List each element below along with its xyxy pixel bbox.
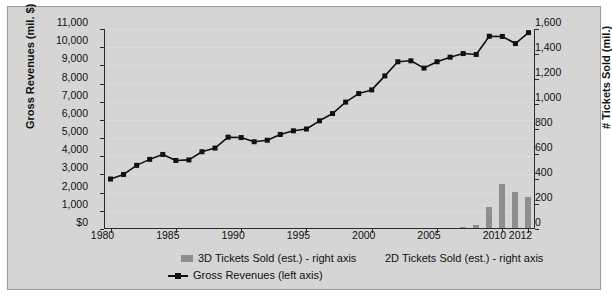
data-point-marker <box>121 172 126 177</box>
legend-bar-swatch-icon <box>181 255 193 262</box>
data-point-marker <box>199 149 204 154</box>
data-point-marker <box>160 152 165 157</box>
y-axis-right-tick <box>535 229 539 230</box>
y-axis-left-tick-label: 11,000 <box>8 16 88 28</box>
series-line-path <box>111 33 529 179</box>
y-axis-right-title: # Tickets Sold (mil.) <box>600 26 612 129</box>
y-axis-left-tick <box>100 120 104 121</box>
data-point-marker <box>213 146 218 151</box>
y-axis-right-tick <box>535 129 539 130</box>
y-axis-left-tick <box>100 193 104 194</box>
y-axis-left-tick-label: 7,000 <box>8 89 88 101</box>
legend-item-label: 3D Tickets Sold (est.) - right axis <box>198 253 356 264</box>
data-point-marker <box>330 111 335 116</box>
data-point-marker <box>265 138 270 143</box>
y-axis-left-tick-label: 1,000 <box>8 198 88 210</box>
y-axis-left-tick <box>100 211 104 212</box>
y-axis-right-tick-label: 200 <box>535 191 553 203</box>
y-axis-left-tick-label: 10,000 <box>8 34 88 46</box>
data-point-marker <box>369 87 374 92</box>
y-axis-left-tick <box>100 47 104 48</box>
y-axis-left-tick-label: 6,000 <box>8 107 88 119</box>
data-point-marker <box>343 100 348 105</box>
y-axis-right-tick-label: 1,600 <box>535 16 561 28</box>
legend-item[interactable]: 2D Tickets Sold (est.) - right axis <box>385 253 543 264</box>
y-axis-right-tick <box>535 154 539 155</box>
data-point-marker <box>317 118 322 123</box>
data-point-marker <box>421 66 426 71</box>
data-point-marker <box>395 59 400 64</box>
data-point-marker <box>356 91 361 96</box>
data-point-marker <box>500 34 505 39</box>
y-axis-left-tick <box>100 138 104 139</box>
data-point-marker <box>435 59 440 64</box>
data-point-marker <box>461 51 466 56</box>
y-axis-left-tick <box>100 65 104 66</box>
legend-item[interactable]: 3D Tickets Sold (est.) - right axis <box>181 253 356 264</box>
x-axis-tick <box>111 229 112 233</box>
x-axis-tick <box>502 229 503 233</box>
y-axis-right-tick-label: 800 <box>535 116 553 128</box>
x-axis-tick <box>241 229 242 233</box>
data-point-marker <box>134 163 139 168</box>
data-point-marker <box>186 157 191 162</box>
data-point-marker <box>108 177 113 182</box>
legend-item[interactable]: Gross Revenues (left axis) <box>168 270 323 281</box>
y-axis-right-tick <box>535 54 539 55</box>
y-axis-right-tick-label: 1,400 <box>535 41 561 53</box>
data-point-marker <box>239 135 244 140</box>
y-axis-right-tick-label: 400 <box>535 166 553 178</box>
data-point-marker <box>304 127 309 132</box>
data-point-marker <box>487 34 492 39</box>
y-axis-right-tick-label: 1,200 <box>535 66 561 78</box>
y-axis-left-tick <box>100 229 104 230</box>
x-axis-tick <box>437 229 438 233</box>
data-point-marker <box>408 58 413 63</box>
y-axis-left-tick-label: 8,000 <box>8 71 88 83</box>
y-axis-left-tick-label: $0 <box>8 216 88 228</box>
y-axis-right-tick-label: 1,000 <box>535 91 561 103</box>
data-point-marker <box>513 41 518 46</box>
y-axis-left-tick-label: 9,000 <box>8 52 88 64</box>
y-axis-left-tick-label: 2,000 <box>8 180 88 192</box>
data-point-marker <box>278 132 283 137</box>
y-axis-left-line <box>104 29 105 229</box>
y-axis-right-tick-label: 0 <box>535 216 541 228</box>
y-axis-left-tick-label: 5,000 <box>8 125 88 137</box>
x-axis-line <box>104 228 535 229</box>
data-point-marker <box>252 139 257 144</box>
data-point-marker <box>382 73 387 78</box>
y-axis-right-tick <box>535 79 539 80</box>
x-axis-tick <box>372 229 373 233</box>
chart-panel: Gross Revenues (mil. $) # Tickets Sold (… <box>7 6 601 290</box>
y-axis-left-tick <box>100 84 104 85</box>
data-point-marker <box>226 135 231 140</box>
y-axis-left-tick-label: 4,000 <box>8 143 88 155</box>
y-axis-right-tick <box>535 179 539 180</box>
y-axis-left-tick <box>100 156 104 157</box>
y-axis-right-tick <box>535 204 539 205</box>
y-axis-left-tick <box>100 29 104 30</box>
y-axis-right-tick <box>535 104 539 105</box>
y-axis-left-tick-label: 3,000 <box>8 161 88 173</box>
legend-item-label: Gross Revenues (left axis) <box>193 270 323 281</box>
legend-item-label: 2D Tickets Sold (est.) - right axis <box>385 253 543 264</box>
legend-line-marker-swatch-icon <box>168 271 188 280</box>
y-axis-right-tick <box>535 29 539 30</box>
data-point-marker <box>173 158 178 163</box>
y-axis-left-tick <box>100 174 104 175</box>
y-axis-right-tick-label: 600 <box>535 141 553 153</box>
line-series-gross-revenues <box>104 29 535 229</box>
y-axis-left-tick <box>100 102 104 103</box>
data-point-marker <box>291 128 296 133</box>
x-axis-tick <box>528 229 529 233</box>
data-point-marker <box>147 157 152 162</box>
x-axis-tick <box>306 229 307 233</box>
data-point-marker <box>448 55 453 60</box>
x-axis-tick <box>176 229 177 233</box>
data-point-marker <box>474 52 479 57</box>
plot-area <box>104 29 535 229</box>
data-point-marker <box>526 30 531 35</box>
